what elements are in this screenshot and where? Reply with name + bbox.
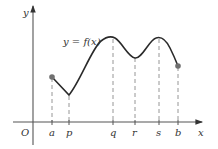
dashed-guides <box>52 39 178 122</box>
origin-label: O <box>21 127 29 138</box>
point-label-s: s <box>156 127 161 138</box>
function-graph: y = f(x) y x O a p q r s b <box>0 0 218 149</box>
y-axis-label: y <box>22 7 29 18</box>
endpoint-b-dot <box>175 63 181 69</box>
point-label-r: r <box>132 127 138 138</box>
function-label: y = f(x) <box>62 36 101 47</box>
point-label-b: b <box>175 127 181 138</box>
point-label-p: p <box>66 127 73 138</box>
point-label-q: q <box>110 127 116 138</box>
x-axis-label: x <box>198 127 204 138</box>
point-label-a: a <box>49 127 55 138</box>
endpoint-a-dot <box>49 74 55 80</box>
